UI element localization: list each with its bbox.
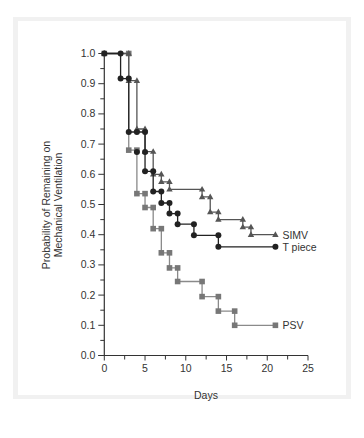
x-tick-label: 20 xyxy=(261,362,273,374)
data-point-circle xyxy=(126,129,132,135)
data-point-circle xyxy=(150,168,156,174)
y-tick-label: 0.9 xyxy=(81,77,96,89)
y-tick-label: 0.3 xyxy=(81,258,96,270)
x-tick-label: 5 xyxy=(142,362,148,374)
survival-chart: 0.00.10.20.30.40.50.60.70.80.91.00510152… xyxy=(0,0,364,438)
data-point-square xyxy=(199,294,205,300)
data-point-circle xyxy=(118,76,124,82)
y-tick-label: 0.1 xyxy=(81,319,96,331)
data-point-square xyxy=(167,265,173,271)
data-point-circle xyxy=(142,129,148,135)
data-point-square xyxy=(199,279,205,285)
x-tick-label: 25 xyxy=(302,362,314,374)
y-tick-label: 0.6 xyxy=(81,168,96,180)
data-point-square xyxy=(126,147,132,153)
data-point-circle xyxy=(126,76,132,82)
data-point-square xyxy=(232,308,238,314)
data-point-circle xyxy=(175,221,181,227)
data-point-square xyxy=(175,279,181,285)
data-point-square xyxy=(134,191,140,197)
data-point-circle xyxy=(215,244,221,250)
data-point-square xyxy=(159,226,165,232)
data-point-circle xyxy=(191,232,197,238)
data-point-circle xyxy=(150,189,156,195)
data-point-square xyxy=(159,250,165,256)
data-point-square xyxy=(216,308,222,314)
series-label-simv: SIMV xyxy=(282,229,308,241)
y-tick-label: 0.2 xyxy=(81,289,96,301)
data-point-triangle xyxy=(158,171,164,177)
data-point-square xyxy=(150,226,156,232)
data-point-square xyxy=(150,205,156,211)
y-tick-label: 0.7 xyxy=(81,138,96,150)
data-point-circle xyxy=(142,149,148,155)
y-axis-title-line1: Probability of Remaining on xyxy=(40,141,52,270)
axes: 0.00.10.20.30.40.50.60.70.80.91.00510152… xyxy=(81,47,314,374)
data-point-circle xyxy=(158,200,164,206)
data-point-square xyxy=(232,323,238,329)
x-tick-label: 0 xyxy=(101,362,107,374)
x-tick-label: 15 xyxy=(221,362,233,374)
data-point-square xyxy=(167,250,173,256)
data-point-circle xyxy=(166,211,172,217)
series-label-psv: PSV xyxy=(282,319,303,331)
data-point-circle xyxy=(166,200,172,206)
data-point-triangle xyxy=(207,193,213,199)
series-group: PSVSIMVT piece xyxy=(101,50,317,331)
data-point-square xyxy=(142,191,148,197)
data-point-circle xyxy=(118,51,124,57)
data-point-circle xyxy=(134,149,140,155)
data-point-square xyxy=(175,265,181,271)
y-tick-label: 0.5 xyxy=(81,198,96,210)
data-point-triangle xyxy=(215,209,221,215)
y-tick-label: 0.8 xyxy=(81,107,96,119)
data-point-circle xyxy=(158,189,164,195)
data-point-circle xyxy=(101,51,107,57)
data-point-circle xyxy=(215,232,221,238)
y-axis-title-line2: Mechanical Ventilation xyxy=(52,153,64,258)
data-point-circle xyxy=(142,168,148,174)
data-point-triangle xyxy=(199,193,205,199)
data-point-triangle xyxy=(248,231,254,237)
data-point-circle xyxy=(134,129,140,135)
data-point-square xyxy=(142,205,148,211)
data-point-square xyxy=(273,323,279,329)
data-point-circle xyxy=(175,211,181,217)
y-tick-label: 1.0 xyxy=(81,47,96,59)
y-tick-label: 0.0 xyxy=(81,349,96,361)
x-tick-label: 10 xyxy=(180,362,192,374)
series-label-t-piece: T piece xyxy=(282,241,316,253)
x-axis-title: Days xyxy=(194,389,218,401)
y-tick-label: 0.4 xyxy=(81,228,96,240)
data-point-circle xyxy=(191,221,197,227)
data-point-circle xyxy=(272,244,278,250)
data-point-triangle xyxy=(272,231,278,237)
data-point-triangle xyxy=(207,209,213,215)
data-point-square xyxy=(216,294,222,300)
